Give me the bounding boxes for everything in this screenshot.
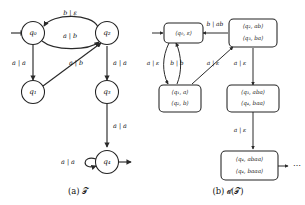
edge-n2-n0: b | b — [170, 43, 184, 84]
state-q0-label: q₀ — [29, 28, 37, 37]
node-n2-line-0: ⟨q₁, a⟩ — [171, 89, 188, 96]
edge-label-q0-q2: a | b — [63, 32, 77, 40]
edge-n0-n2: a | ε — [147, 43, 169, 84]
edge-label-q1-q2: a | b — [69, 59, 83, 67]
state-q4[interactable]: q₄ — [96, 151, 119, 174]
node-n3[interactable]: ⟨q₃, aba⟩ ⟨q₄, baa⟩ — [227, 85, 279, 112]
edge-label-q4-selfloop: a | a — [61, 158, 75, 166]
figure-container: b | ε a | b a | a a | b a | a a | a — [0, 0, 305, 205]
edge-q0-q1: a | a — [12, 45, 33, 80]
edge-q2-q0: b | ε — [44, 9, 98, 27]
edge-q3-q4: a | a — [107, 103, 127, 147]
edge-q0-q2: a | b — [42, 32, 99, 49]
node-n3-line-1: ⟨q₄, baa⟩ — [241, 100, 265, 107]
figure-svg: b | ε a | b a | a a | b a | a a | a — [0, 0, 305, 205]
node-n4[interactable]: ⟨q₄, abaa⟩ ⟨q₄, baaa⟩ — [221, 151, 278, 180]
edge-q4-q4-selfloop: a | a — [61, 158, 96, 167]
node-n1-line-1: ⟨q₃, ba⟩ — [243, 35, 264, 42]
edge-n2-n1: a | ε — [192, 47, 233, 84]
state-q1[interactable]: q₁ — [22, 81, 45, 104]
edge-n3-n4: a | ε — [234, 112, 253, 149]
state-q3-label: q₃ — [103, 87, 111, 96]
edge-q2-q3: a | a — [107, 46, 127, 80]
node-n2[interactable]: ⟨q₁, a⟩ ⟨q₂, b⟩ — [159, 85, 201, 112]
caption-panel-a: (a) 𝒯 — [68, 186, 90, 196]
state-q4-label: q₄ — [103, 157, 111, 166]
edge-label-q2-q0: b | ε — [63, 9, 77, 17]
edge-n1-n3: a | ε — [234, 48, 253, 85]
state-q3[interactable]: q₃ — [96, 81, 119, 104]
edge-n1-n0: b | ab — [203, 21, 228, 33]
state-q1-label: q₁ — [29, 87, 37, 96]
edge-label-n0-n2: a | ε — [147, 60, 159, 67]
node-n0-line-0: ⟨q₀, ε⟩ — [175, 30, 192, 37]
edge-label-q3-q4: a | a — [113, 122, 127, 130]
panel-a: b | ε a | b a | a a | b a | a a | a — [11, 9, 131, 196]
node-n3-line-0: ⟨q₃, aba⟩ — [241, 89, 265, 96]
state-q2-label: q₂ — [103, 28, 111, 37]
state-q2[interactable]: q₂ — [96, 22, 119, 45]
node-n2-line-1: ⟨q₂, b⟩ — [171, 100, 188, 107]
continuation-arrow-n4: ⋯ — [278, 161, 301, 170]
caption-panel-b: (b) 𝒹(𝒯) — [212, 186, 243, 196]
node-n1[interactable]: ⟨q₂, ab⟩ ⟨q₃, ba⟩ — [229, 19, 277, 47]
node-n4-line-1: ⟨q₄, baaa⟩ — [236, 168, 263, 175]
continuation-ellipsis: ⋯ — [293, 161, 301, 170]
edge-label-n1-n3: a | ε — [234, 60, 246, 67]
edge-label-n2-n1: a | ε — [207, 60, 219, 67]
edge-label-n1-n0: b | ab — [207, 21, 224, 28]
node-n4-line-0: ⟨q₄, abaa⟩ — [236, 156, 263, 163]
edge-label-q2-q3: a | a — [113, 59, 127, 67]
node-n1-line-0: ⟨q₂, ab⟩ — [243, 23, 264, 30]
edge-label-n2-n0: b | b — [170, 60, 184, 67]
edge-label-n3-n4: a | ε — [234, 127, 246, 134]
panel-b: b | ab a | ε b | b a | ε a | ε a | ε — [147, 19, 301, 196]
state-q0[interactable]: q₀ — [22, 22, 45, 45]
edge-q1-q2: a | b — [43, 43, 101, 86]
edge-label-q0-q1: a | a — [12, 59, 26, 67]
node-n0[interactable]: ⟨q₀, ε⟩ — [164, 23, 203, 43]
